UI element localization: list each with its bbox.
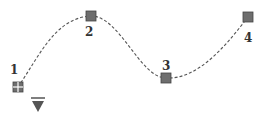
point-label-2: 2: [85, 25, 93, 39]
point-label-1: 1: [10, 63, 18, 77]
triangle-down-icon[interactable]: [31, 98, 45, 112]
spline-curve[interactable]: [18, 16, 248, 87]
point-label-3: 3: [162, 59, 170, 73]
point-label-4: 4: [244, 31, 252, 45]
control-point-2[interactable]: [86, 11, 96, 21]
control-point-1[interactable]: [13, 82, 23, 92]
spline-diagram: 1 2 3 4: [0, 0, 261, 117]
control-point-3[interactable]: [161, 73, 171, 83]
control-point-4[interactable]: [243, 12, 253, 22]
